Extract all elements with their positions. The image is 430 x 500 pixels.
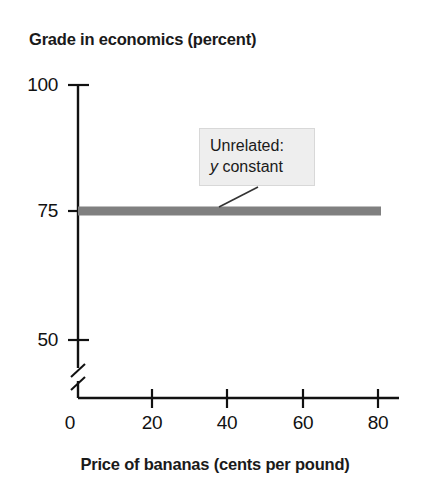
x-axis-title: Price of bananas (cents per pound) xyxy=(0,455,430,474)
y-tick-label-100: 100 xyxy=(0,74,58,96)
x-tick-label-60: 60 xyxy=(273,412,333,434)
annotation-callout: Unrelated: y constant xyxy=(199,128,315,186)
annotation-line-2: y constant xyxy=(210,156,305,177)
x-tick-label-40: 40 xyxy=(197,412,257,434)
annotation-leader-line xyxy=(219,187,258,207)
x-tick-label-20: 20 xyxy=(122,412,182,434)
x-tick-label-80: 80 xyxy=(348,412,408,434)
y-tick-label-75: 75 xyxy=(0,200,58,222)
y-tick-label-50: 50 xyxy=(0,329,58,351)
annotation-line-1: Unrelated: xyxy=(210,135,305,156)
annotation-variable-y: y xyxy=(210,158,218,175)
chart-container: Grade in economics (percent) 100 75 50 0… xyxy=(0,0,430,500)
annotation-line-2-rest: constant xyxy=(218,158,283,175)
x-tick-label-0: 0 xyxy=(40,412,100,434)
